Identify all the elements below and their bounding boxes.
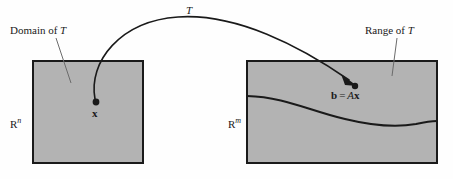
transformation-label: T [186,5,192,16]
domain-caption: Domain of T [10,25,66,36]
x-point-dot [93,99,100,106]
range-caption: Range of T [365,25,414,36]
domain-space-exponent: n [17,116,21,125]
x-symbol: x [354,89,360,101]
range-caption-italic-t: T [408,24,414,36]
b-equals-ax-label: b=Ax [331,90,360,101]
x-vector-label: x [92,108,98,119]
range-caption-text: Range of [365,24,408,36]
domain-caption-italic-t: T [60,24,66,36]
equals-symbol: = [337,89,347,101]
domain-caption-text: Domain of [10,24,60,36]
domain-box [33,61,143,163]
domain-space-label: Rn [10,117,21,130]
range-space-label: Rm [228,117,241,130]
range-space-exponent: m [235,116,241,125]
transformation-figure: Domain of T Range of T T Rn Rm x b=Ax [0,0,453,179]
